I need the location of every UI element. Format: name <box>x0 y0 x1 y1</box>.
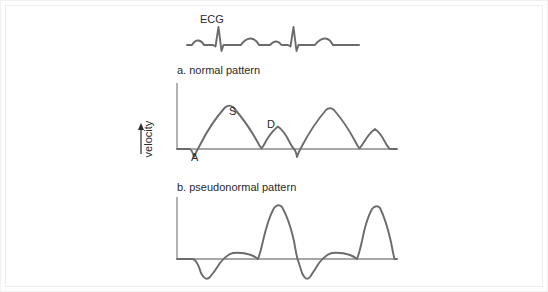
wave-label-a: A <box>191 151 198 163</box>
pseudonormal-pattern-trace-group <box>177 205 397 279</box>
figure-canvas: ECG a. normal pattern S D A b. pseudonor… <box>0 0 548 292</box>
waveform-traces <box>1 1 548 292</box>
ecg-waveform <box>187 27 359 51</box>
ecg-trace-group <box>187 27 359 51</box>
wave-label-d: D <box>267 118 275 130</box>
wave-label-s: S <box>229 105 236 117</box>
ecg-panel-label: ECG <box>200 13 224 25</box>
velocity-axis-label: velocity <box>142 104 154 174</box>
normal-pattern-panel-label: a. normal pattern <box>177 64 260 76</box>
pseudonormal-pattern-panel-label: b. pseudonormal pattern <box>177 181 296 193</box>
pseudonormal-pattern-waveform <box>177 205 397 279</box>
